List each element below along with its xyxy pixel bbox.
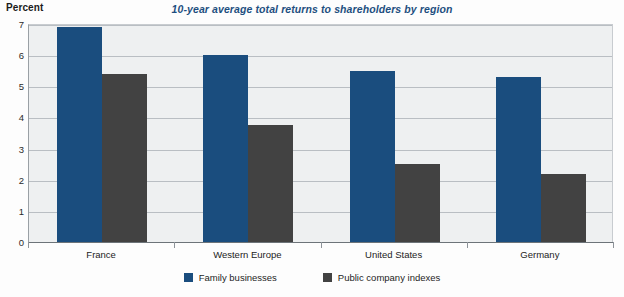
chart-legend: Family businessesPublic company indexes [0,272,624,283]
chart-figure: Percent 10-year average total returns to… [0,0,624,297]
legend-label: Public company indexes [338,272,440,283]
legend-label: Family businesses [199,272,277,283]
category-label-united-states: United States [365,249,422,260]
category-label-germany: Germany [520,249,559,260]
legend-swatch-icon [323,273,332,282]
y-tick-label-4: 4 [2,112,24,123]
gridline-7 [29,25,612,26]
y-tick-label-2: 2 [2,174,24,185]
y-tick-label-5: 5 [2,81,24,92]
bar-germany-public-company-indexes [541,174,586,243]
category-label-france: France [86,249,116,260]
chart-title: 10-year average total returns to shareho… [0,3,624,15]
axis-end-tick [613,242,614,248]
bar-france-family-businesses [57,27,102,242]
bar-western-europe-public-company-indexes [248,125,293,242]
y-tick-label-3: 3 [2,143,24,154]
bar-germany-family-businesses [496,77,541,242]
plot-area [28,24,613,242]
legend-item-public-company-indexes[interactable]: Public company indexes [323,272,440,283]
bar-western-europe-family-businesses [203,55,248,242]
bar-france-public-company-indexes [102,74,147,242]
y-tick-label-6: 6 [2,50,24,61]
y-tick-label-7: 7 [2,19,24,30]
legend-swatch-icon [184,273,193,282]
gridline-6 [29,56,612,57]
legend-item-family-businesses[interactable]: Family businesses [184,272,277,283]
category-separator-tick [467,242,468,248]
axis-end-tick [28,242,29,248]
category-separator-tick [321,242,322,248]
category-label-western-europe: Western Europe [213,249,281,260]
y-tick-label-0: 0 [2,237,24,248]
bar-united-states-family-businesses [350,71,395,242]
y-tick-label-1: 1 [2,205,24,216]
category-separator-tick [174,242,175,248]
y-axis: 01234567 [0,24,24,242]
bar-united-states-public-company-indexes [395,164,440,242]
